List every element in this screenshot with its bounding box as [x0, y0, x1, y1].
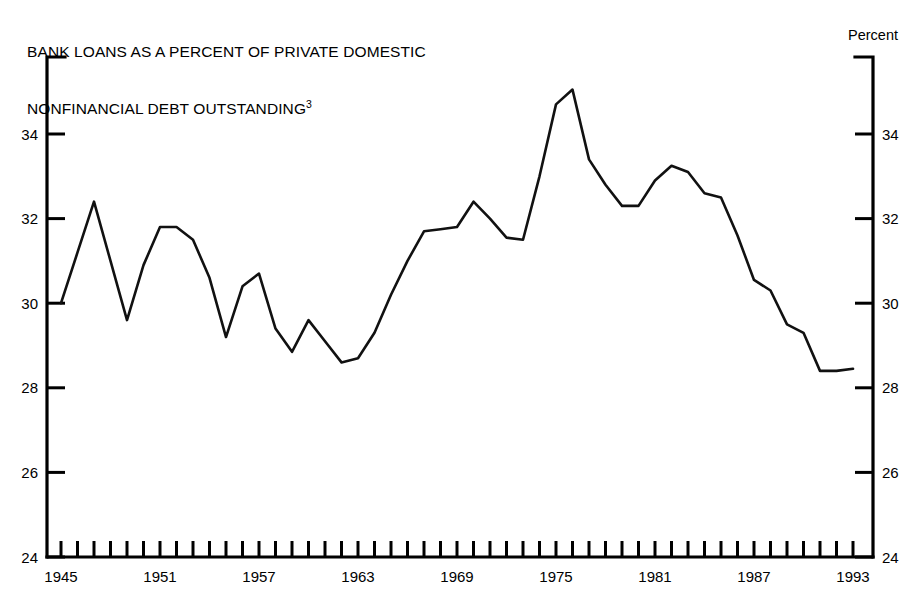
y-axis-tick-label-right: 28 [882, 379, 899, 396]
right-axis-bracket [855, 57, 873, 557]
y-axis-tick-labels-right: 242628303234 [882, 126, 899, 566]
x-axis-tick-labels: 194519511957196319691975198119871993 [44, 568, 869, 585]
x-axis-tick-label: 1957 [242, 568, 275, 585]
chart-plot-area: 242628303234 242628303234 19451951195719… [0, 0, 920, 597]
x-axis-tick-label: 1987 [737, 568, 770, 585]
y-axis-tick-label-right: 26 [882, 464, 899, 481]
y-axis-tick-label: 32 [21, 210, 38, 227]
x-axis-tick-label: 1945 [44, 568, 77, 585]
y-axis-tick-label: 28 [21, 379, 38, 396]
x-axis-ticks [61, 541, 853, 557]
y-axis-ticks [47, 134, 873, 557]
y-axis-tick-label-right: 34 [882, 126, 899, 143]
x-axis-tick-label: 1969 [440, 568, 473, 585]
y-axis-tick-label-right: 30 [882, 295, 899, 312]
x-axis-tick-label: 1951 [143, 568, 176, 585]
x-axis-tick-label: 1975 [539, 568, 572, 585]
x-axis-tick-label: 1993 [836, 568, 869, 585]
x-axis-tick-label: 1981 [638, 568, 671, 585]
y-axis-tick-label: 24 [21, 549, 38, 566]
left-axis-bracket [47, 57, 65, 557]
y-axis-tick-label: 30 [21, 295, 38, 312]
y-axis-tick-labels: 242628303234 [21, 126, 38, 566]
y-axis-tick-label-right: 24 [882, 549, 899, 566]
data-series-line [61, 90, 853, 371]
y-axis-tick-label-right: 32 [882, 210, 899, 227]
chart-axes [47, 57, 873, 557]
x-axis-tick-label: 1963 [341, 568, 374, 585]
chart-figure: BANK LOANS AS A PERCENT OF PRIVATE DOMES… [0, 0, 920, 597]
y-axis-tick-label: 34 [21, 126, 38, 143]
y-axis-tick-label: 26 [21, 464, 38, 481]
